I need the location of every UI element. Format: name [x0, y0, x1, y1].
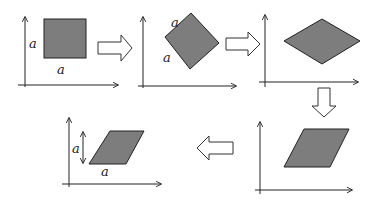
panel-2-rotated-square: a a: [138, 13, 236, 88]
parallelogram-shape: [89, 131, 144, 164]
down-arrow-icon: [312, 88, 336, 117]
base-label: a: [101, 164, 109, 179]
panel-5-parallelogram: a a: [62, 118, 161, 187]
side-label-top: a: [171, 15, 179, 30]
parallelogram-shape: [284, 129, 349, 167]
left-arrow-icon: [197, 136, 233, 160]
side-label-horizontal: a: [57, 62, 65, 77]
right-arrow-icon: [98, 35, 132, 61]
side-label-vertical: a: [29, 36, 37, 51]
right-arrow-icon: [226, 32, 260, 56]
square-shape: [44, 19, 86, 58]
panel-3-rhombus: [259, 15, 360, 87]
height-label: a: [72, 141, 80, 156]
side-label-bottom: a: [163, 50, 171, 65]
panel-4-parallelogram: [255, 122, 352, 194]
rhombus-shape: [284, 19, 360, 64]
transformation-diagram: a a a a a a: [0, 0, 378, 202]
